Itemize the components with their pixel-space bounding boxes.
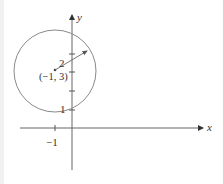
y-tick-label-1: 1	[60, 103, 66, 115]
center-label: (−1, 3)	[39, 71, 68, 83]
radius-label: 2	[59, 57, 65, 69]
coordinate-diagram: y x 2 (−1, 3) 1 −1	[0, 0, 223, 184]
x-axis-label: x	[206, 121, 212, 133]
y-axis-label: y	[76, 11, 82, 23]
x-tick-label-neg1: −1	[46, 136, 58, 148]
